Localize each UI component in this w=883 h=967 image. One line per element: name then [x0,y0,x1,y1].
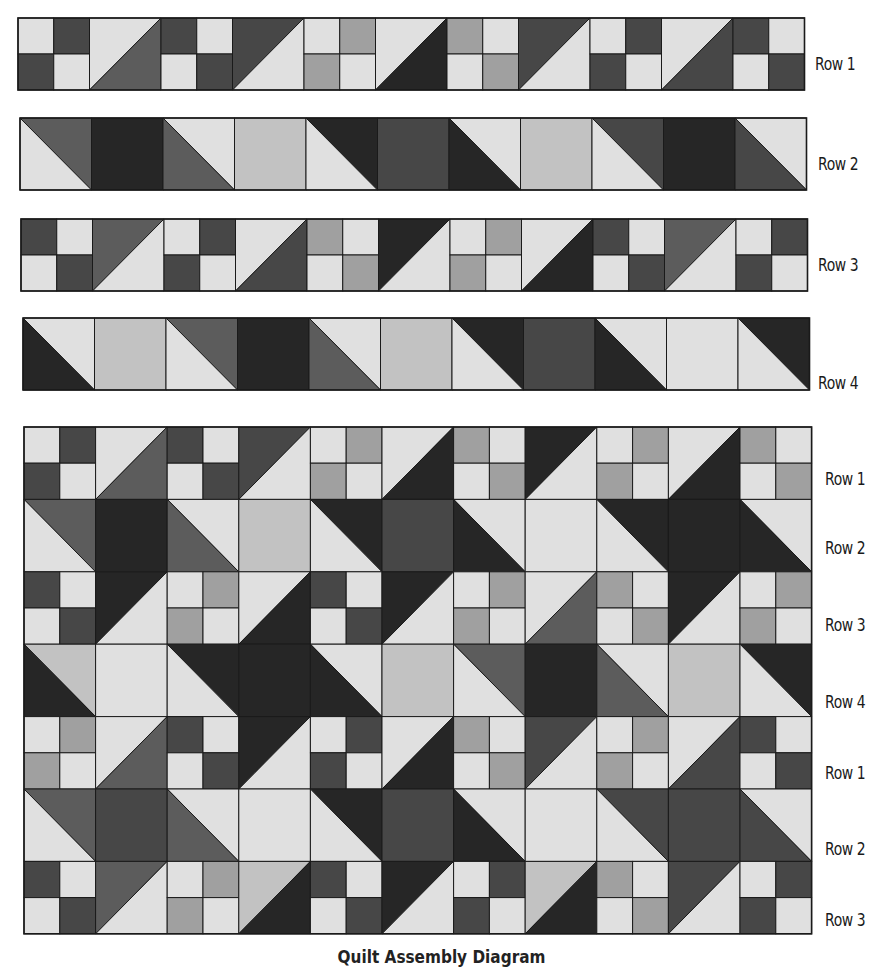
quilt-block [590,18,662,90]
quilt-block [382,789,454,861]
quilt-block [24,644,96,716]
quilt-block [382,499,454,571]
quilt-block [454,717,526,789]
quilt-block [740,572,812,644]
quilt-block [664,118,736,190]
quilt-block [381,318,453,390]
strip-row-label: Row 2 [818,154,858,174]
quilt-block [593,219,665,291]
quilt-block [662,18,734,90]
quilt-block [668,789,740,861]
quilt-row-3 [24,572,812,644]
quilt-block [167,717,239,789]
quilt-block [20,118,92,190]
quilt-block [239,427,311,499]
quilt-block [740,644,812,716]
quilt-block [304,18,376,90]
quilt-block [450,219,522,291]
quilt-row-2 [24,499,812,571]
quilt-block [740,717,812,789]
quilt-block [93,219,165,291]
row-strip-1 [18,18,805,90]
quilt-block [382,717,454,789]
quilt-block [519,18,591,90]
quilt-block [740,499,812,571]
quilt-block [378,118,450,190]
quilt-block [166,318,238,390]
quilt-block [235,118,307,190]
quilt-block [236,219,308,291]
quilt-block [96,427,168,499]
quilt-row-label: Row 3 [825,910,865,930]
quilt-block [525,861,597,933]
quilt-block [521,118,593,190]
quilt-block [307,219,379,291]
quilt-block [665,219,737,291]
quilt-block [525,427,597,499]
quilt-block [597,572,669,644]
quilt-block [525,789,597,861]
quilt-block [310,427,382,499]
quilt-block [167,789,239,861]
quilt-block [24,789,96,861]
quilt-block [239,499,311,571]
quilt-block [740,789,812,861]
quilt-block [592,118,664,190]
strip-row-label: Row 3 [818,255,858,275]
quilt-block [309,318,381,390]
quilt-block [167,572,239,644]
quilt-block [21,219,93,291]
quilt-block [382,861,454,933]
quilt-block [454,789,526,861]
quilt-block [310,499,382,571]
quilt-block [454,644,526,716]
quilt-block [668,427,740,499]
row-strip-4 [23,318,810,390]
quilt-block [24,572,96,644]
quilt-block [525,499,597,571]
quilt-block [95,318,167,390]
quilt-block [239,572,311,644]
quilt-block [167,499,239,571]
quilt-block [167,861,239,933]
quilt-block [525,717,597,789]
quilt-block [454,572,526,644]
quilt-block [738,318,810,390]
row-strip-3 [21,219,808,291]
quilt-block [449,118,521,190]
quilt-block [24,499,96,571]
quilt-block [454,861,526,933]
quilt-block [96,499,168,571]
quilt-block [740,427,812,499]
quilt-block [96,789,168,861]
quilt-row-label: Row 3 [825,615,865,635]
quilt-block [24,427,96,499]
quilt-block [238,318,310,390]
quilt-block [668,861,740,933]
quilt-block [382,427,454,499]
quilt-block [310,572,382,644]
quilt-block [447,18,519,90]
quilt-block [96,717,168,789]
quilt-block [96,572,168,644]
quilt-block [161,18,233,90]
quilt-row-label: Row 2 [825,839,865,859]
row-strips [18,18,810,390]
quilt-block [668,644,740,716]
quilt-block [525,644,597,716]
quilt-block [454,427,526,499]
quilt-block [740,861,812,933]
row-strip-2 [20,118,807,190]
quilt-block [23,318,95,390]
quilt-block [310,789,382,861]
quilt-block [239,717,311,789]
quilt-block [525,572,597,644]
quilt-block [96,644,168,716]
quilt-block [733,18,805,90]
quilt-block [735,118,807,190]
quilt-row-4 [24,644,812,716]
quilt-block [310,644,382,716]
quilt-block [597,861,669,933]
quilt-block [92,118,164,190]
